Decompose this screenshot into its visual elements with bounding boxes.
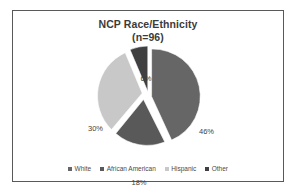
chart-container: NCP Race/Ethnicity (n=96) 6% 46% 30% 18% [12, 10, 284, 182]
legend-label: African American [107, 165, 156, 172]
chart-title-line1: NCP Race/Ethnicity [98, 18, 197, 30]
legend-item-african-american[interactable]: African American [100, 165, 156, 172]
legend-swatch-icon [100, 167, 104, 171]
slice-label-white: 46% [199, 127, 229, 136]
chart-legend: White African American Hispanic Other [13, 165, 283, 172]
slice-label-african-american: 18% [119, 178, 159, 187]
legend-swatch-icon [165, 167, 169, 171]
legend-item-other[interactable]: Other [205, 165, 228, 172]
chart-inner: NCP Race/Ethnicity (n=96) 6% 46% 30% 18% [13, 11, 283, 181]
legend-label: Other [212, 165, 228, 172]
legend-label: White [75, 165, 92, 172]
legend-item-hispanic[interactable]: Hispanic [165, 165, 196, 172]
legend-label: Hispanic [171, 165, 196, 172]
legend-swatch-icon [205, 167, 209, 171]
pie-plot-area: 6% 46% 30% 18% [13, 41, 283, 151]
legend-swatch-icon [68, 167, 72, 171]
pie-slice-white[interactable] [152, 49, 201, 140]
slice-label-other: 6% [131, 74, 161, 83]
slice-label-hispanic: 30% [73, 124, 103, 133]
legend-item-white[interactable]: White [68, 165, 91, 172]
